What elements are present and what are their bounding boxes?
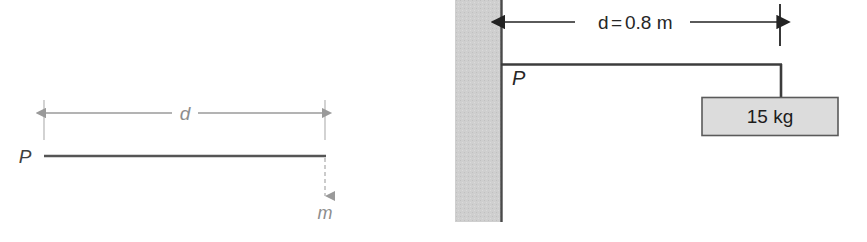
left-point-label: P (19, 146, 32, 167)
right-distance-symbol-glyph: d (598, 12, 609, 33)
left-mass-label: m (318, 203, 333, 223)
right-panel-group: d = 0.8 m P 15 kg (455, 0, 838, 222)
right-point-label: P (512, 67, 526, 89)
physics-figure: d P m d (0, 0, 867, 242)
mass-block-label: 15 kg (747, 106, 793, 127)
wall-support (455, 0, 501, 222)
right-distance-label-group: d = 0.8 m (598, 12, 673, 33)
right-distance-symbol: d (598, 12, 609, 33)
right-distance-equals: = (611, 12, 622, 33)
figure-canvas: d P m d (0, 0, 867, 242)
left-distance-label: d (180, 103, 192, 124)
right-distance-value: 0.8 m (625, 12, 673, 33)
left-panel-group: d P m (19, 100, 333, 223)
